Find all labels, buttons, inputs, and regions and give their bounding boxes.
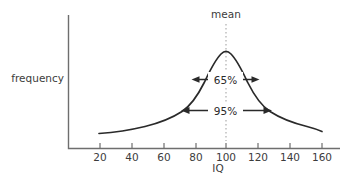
x-tick-labels: 20 40 60 80 100 120 140 160 xyxy=(93,151,332,163)
arrow-head-right-icon xyxy=(252,76,260,83)
iq-distribution-figure: 20 40 60 80 100 120 140 160 IQ frequency… xyxy=(0,0,357,180)
ninety-five-percent-annotation: 95% xyxy=(181,103,272,118)
arrow-head-left-icon xyxy=(192,76,200,83)
y-axis-title: frequency xyxy=(11,72,64,84)
chart-canvas: 20 40 60 80 100 120 140 160 IQ frequency… xyxy=(0,0,357,180)
mean-label: mean xyxy=(211,8,241,20)
tick-label-160: 160 xyxy=(312,151,332,163)
tick-label-60: 60 xyxy=(157,151,170,163)
tick-label-40: 40 xyxy=(125,151,138,163)
sixty-five-percent-label: 65% xyxy=(214,74,237,86)
tick-label-20: 20 xyxy=(93,151,106,163)
tick-label-80: 80 xyxy=(189,151,202,163)
tick-label-120: 120 xyxy=(248,151,268,163)
normal-distribution-curve xyxy=(99,51,322,133)
ninety-five-percent-label: 95% xyxy=(214,105,237,117)
tick-label-100: 100 xyxy=(216,151,236,163)
tick-label-140: 140 xyxy=(280,151,300,163)
x-tick-marks xyxy=(100,143,322,149)
x-axis-title: IQ xyxy=(212,162,223,174)
